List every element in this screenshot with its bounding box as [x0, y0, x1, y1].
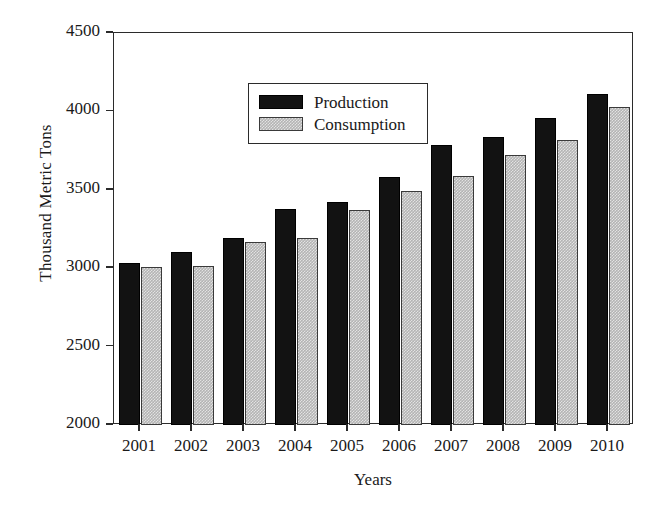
bar-production-2002 — [171, 252, 192, 425]
x-tick-mark — [502, 424, 504, 431]
y-tick-mark — [106, 31, 113, 33]
bar-consumption-2003 — [245, 242, 266, 425]
x-tick-label: 2010 — [575, 436, 639, 456]
bar-production-2008 — [483, 137, 504, 425]
x-tick-mark — [450, 424, 452, 431]
bar-production-2007 — [431, 145, 452, 425]
plot-area: ProductionConsumption — [113, 32, 633, 424]
y-tick-label: 4500 — [66, 21, 100, 41]
bar-consumption-2005 — [349, 210, 370, 425]
bar-consumption-2004 — [297, 238, 318, 425]
bar-production-2001 — [119, 263, 140, 425]
bar-consumption-2010 — [609, 107, 630, 425]
solid-black-swatch — [259, 95, 303, 109]
hatched-gray-swatch — [259, 117, 303, 131]
y-tick-label: 4000 — [66, 99, 100, 119]
y-tick-label: 3500 — [66, 178, 100, 198]
bar-production-2003 — [223, 238, 244, 425]
x-tick-mark — [190, 424, 192, 431]
bar-production-2004 — [275, 209, 296, 425]
x-tick-mark — [554, 424, 556, 431]
y-tick-mark — [106, 110, 113, 112]
y-tick-label: 2000 — [66, 413, 100, 433]
bar-production-2005 — [327, 202, 348, 425]
x-tick-mark — [398, 424, 400, 431]
x-axis-title: Years — [113, 470, 633, 490]
x-tick-mark — [294, 424, 296, 431]
y-tick-mark — [106, 423, 113, 425]
y-axis-title: Thousand Metric Tons — [36, 93, 56, 313]
bar-production-2009 — [535, 118, 556, 425]
x-tick-mark — [346, 424, 348, 431]
x-tick-mark — [138, 424, 140, 431]
bar-consumption-2007 — [453, 176, 474, 425]
legend-item-production: Production — [259, 91, 417, 113]
bar-consumption-2008 — [505, 155, 526, 425]
bar-consumption-2002 — [193, 266, 214, 425]
bar-consumption-2001 — [141, 267, 162, 425]
legend-label: Consumption — [314, 116, 406, 133]
bar-production-2006 — [379, 177, 400, 425]
legend-label: Production — [314, 94, 389, 111]
x-tick-mark — [606, 424, 608, 431]
bar-production-2010 — [587, 94, 608, 425]
y-tick-mark — [106, 188, 113, 190]
y-tick-label: 3000 — [66, 256, 100, 276]
bar-consumption-2009 — [557, 140, 578, 425]
legend-item-consumption: Consumption — [259, 113, 417, 135]
y-tick-mark — [106, 345, 113, 347]
x-tick-mark — [242, 424, 244, 431]
y-tick-label: 2500 — [66, 335, 100, 355]
y-tick-mark — [106, 266, 113, 268]
bar-consumption-2006 — [401, 191, 422, 425]
bar-chart: Thousand Metric Tons 2000250030003500400… — [0, 0, 668, 513]
chart-legend: ProductionConsumption — [248, 83, 428, 144]
